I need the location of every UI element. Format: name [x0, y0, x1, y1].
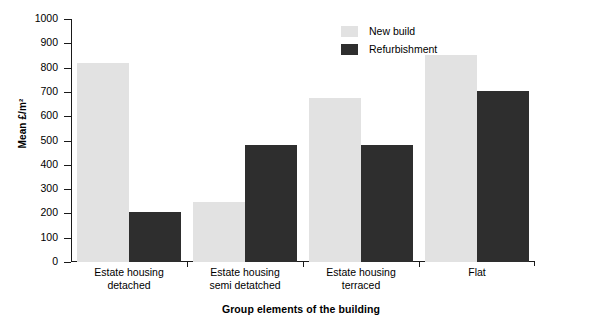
y-axis-tick: [64, 43, 71, 44]
bar: [309, 98, 361, 262]
y-axis-tick: [64, 92, 71, 93]
legend-label: New build: [369, 26, 415, 37]
legend-item: Refurbishment: [341, 40, 437, 58]
y-axis-tick-label: 600: [40, 110, 58, 121]
x-axis-category-label: Estate housing terraced: [303, 266, 419, 291]
x-axis-category-label: Estate housing semi detatched: [187, 266, 303, 291]
legend-swatch: [341, 44, 358, 55]
bar: [193, 202, 245, 262]
y-axis-tick-label: 700: [40, 86, 58, 97]
bar: [425, 55, 477, 262]
bar: [477, 91, 529, 262]
legend-label: Refurbishment: [369, 44, 437, 55]
y-axis-tick: [64, 165, 71, 166]
y-axis-tick-label: 500: [40, 135, 58, 146]
bar-chart: Mean £/m² 010020030040050060070080090010…: [0, 0, 602, 326]
bar: [245, 145, 297, 262]
bar: [77, 63, 129, 262]
y-axis-line: [71, 19, 72, 262]
y-axis-tick-label: 400: [40, 159, 58, 170]
bar: [129, 212, 181, 262]
x-axis-category-label: Estate housing detached: [71, 266, 187, 291]
y-axis-tick-label: 0: [52, 256, 58, 267]
bar: [361, 145, 413, 262]
legend-item: New build: [341, 22, 437, 40]
y-axis-tick: [64, 19, 71, 20]
y-axis-tick: [64, 68, 71, 69]
y-axis-tick-label: 100: [40, 232, 58, 243]
x-axis-category-label: Flat: [419, 266, 535, 279]
y-axis-tick: [64, 238, 71, 239]
y-axis-tick-label: 1000: [35, 13, 58, 24]
y-axis-tick-label: 300: [40, 183, 58, 194]
y-axis-title: Mean £/m²: [17, 69, 28, 179]
legend-swatch: [341, 26, 358, 37]
y-axis-tick-label: 900: [40, 37, 58, 48]
y-axis-tick: [64, 262, 71, 263]
y-axis-tick: [64, 141, 71, 142]
legend: New buildRefurbishment: [341, 22, 437, 58]
y-axis-tick: [64, 116, 71, 117]
y-axis-tick: [64, 213, 71, 214]
x-axis-title: Group elements of the building: [0, 303, 602, 315]
y-axis-tick-label: 800: [40, 62, 58, 73]
y-axis-tick-label: 200: [40, 207, 58, 218]
y-axis-tick: [64, 189, 71, 190]
plot-area: 01002003004005006007008009001000: [71, 19, 535, 262]
